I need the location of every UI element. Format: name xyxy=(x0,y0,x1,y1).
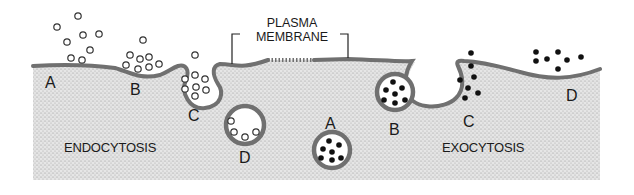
exo-label-c: C xyxy=(463,114,475,130)
endo-label-c: C xyxy=(188,108,200,124)
exo-a-vesicle xyxy=(314,132,350,168)
endo-a-particles xyxy=(54,13,102,63)
exo-d-particles xyxy=(533,49,584,72)
exo-b-vesicle xyxy=(377,74,413,110)
endo-c-particles xyxy=(182,52,209,99)
endo-label-d: D xyxy=(239,150,251,166)
plasma-membrane-label: PLASMA MEMBRANE xyxy=(252,16,332,44)
exo-label-b: B xyxy=(389,122,400,138)
endo-label-b: B xyxy=(130,82,141,98)
exo-label-d: D xyxy=(566,88,578,104)
exocytosis-label: EXOCYTOSIS xyxy=(442,140,524,155)
plasma-membrane-label-line1: PLASMA xyxy=(252,16,332,30)
plasma-membrane-label-line2: MEMBRANE xyxy=(252,30,332,44)
endo-b-particles xyxy=(123,37,162,72)
exo-label-a: A xyxy=(325,116,336,132)
endo-label-a: A xyxy=(45,75,56,91)
endocytosis-label: ENDOCYTOSIS xyxy=(64,140,156,155)
endo-d-vesicle xyxy=(226,106,264,144)
